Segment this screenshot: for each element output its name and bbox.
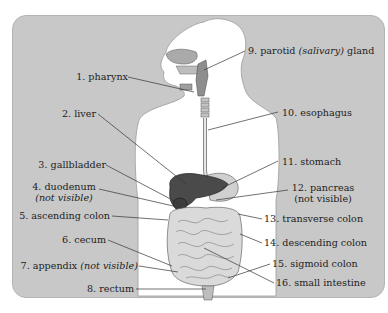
tongue bbox=[176, 66, 200, 74]
label-appendix: 7. appendix (not visible) bbox=[10, 260, 138, 271]
large-intestine bbox=[167, 207, 242, 286]
label-appendix-name: 7. appendix bbox=[21, 260, 78, 271]
label-esophagus: 10. esophagus bbox=[282, 107, 352, 118]
label-pancreas-note: (not visible) bbox=[286, 193, 360, 204]
label-cecum: 6. cecum bbox=[30, 234, 106, 245]
rectum-shape bbox=[202, 286, 214, 300]
label-sigmoid-colon: 15. sigmoid colon bbox=[272, 258, 358, 269]
label-pancreas: 12. pancreas (not visible) bbox=[286, 182, 360, 204]
label-small-intestine: 16. small intestine bbox=[276, 277, 366, 288]
label-ascending-colon: 5. ascending colon bbox=[10, 210, 110, 221]
label-parotid-suffix: gland bbox=[347, 45, 374, 56]
label-rectum: 8. rectum bbox=[40, 283, 134, 294]
label-parotid-gland: 9. parotid (salivary) gland bbox=[248, 45, 374, 56]
label-parotid-note: (salivary) bbox=[299, 45, 344, 56]
label-gallbladder: 3. gallbladder bbox=[20, 159, 106, 170]
label-appendix-note: (not visible) bbox=[80, 260, 138, 271]
label-parotid-name: 9. parotid bbox=[248, 45, 296, 56]
label-duodenum-note: (not visible) bbox=[30, 192, 98, 203]
label-duodenum-name: 4. duodenum bbox=[30, 181, 98, 192]
label-pharynx: 1. pharynx bbox=[30, 71, 128, 82]
label-duodenum: 4. duodenum (not visible) bbox=[30, 181, 98, 203]
label-liver: 2. liver bbox=[30, 108, 96, 119]
label-descending-colon: 14. descending colon bbox=[264, 237, 367, 248]
label-pancreas-name: 12. pancreas bbox=[286, 182, 360, 193]
label-stomach: 11. stomach bbox=[282, 156, 341, 167]
label-transverse-colon: 13. transverse colon bbox=[264, 213, 363, 224]
